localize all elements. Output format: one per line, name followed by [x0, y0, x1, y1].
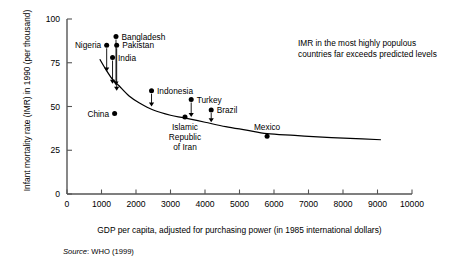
label-mexico: Mexico: [254, 122, 281, 132]
chart-annotation-note: IMR in the most highly populous countrie…: [298, 38, 448, 60]
x-tick-label: 10000: [400, 199, 424, 209]
label-nigeria: Nigeria: [75, 40, 102, 50]
fitted-prediction-curve: [100, 59, 381, 140]
x-tick-label: 8000: [333, 199, 352, 209]
x-tick-label: 9000: [368, 199, 387, 209]
arrow-head-nigeria: [104, 68, 109, 72]
y-tick-label: 0: [55, 189, 60, 199]
source-rest: : WHO (1999): [87, 247, 134, 256]
y-axis-label: Infant mortality rate (IMR) in 1990 (per…: [22, 6, 33, 196]
source-caption: Source: WHO (1999): [63, 247, 134, 256]
point-india: [110, 55, 115, 60]
x-axis-label: GDP per capita, adjusted for purchasing …: [67, 225, 412, 235]
arrow-head-pakistan: [114, 87, 119, 91]
y-tick-label: 25: [50, 145, 60, 155]
point-bangladesh: [113, 34, 118, 39]
x-tick-label: 7000: [299, 199, 318, 209]
label-brazil: Brazil: [217, 105, 238, 115]
y-tick-labels: 0255075100: [46, 14, 61, 199]
point-nigeria: [104, 43, 109, 48]
label-china: China: [87, 109, 109, 119]
x-tick-label: 2000: [126, 199, 145, 209]
point-islamic-republic-of-iran: [182, 115, 187, 120]
point-brazil: [209, 108, 214, 113]
x-tick-label: 6000: [264, 199, 283, 209]
label-turkey: Turkey: [197, 95, 223, 105]
x-tick-label: 1000: [92, 199, 111, 209]
point-mexico: [265, 134, 270, 139]
point-turkey: [189, 97, 194, 102]
data-point-labels: NigeriaBangladeshPakistanIndiaIndonesiaC…: [75, 32, 281, 152]
source-prefix: Source: [63, 247, 87, 256]
x-tick-label: 0: [65, 199, 70, 209]
point-china: [112, 111, 117, 116]
y-tick-label: 75: [50, 58, 60, 68]
label-islamic-republic-of-iran: Republic: [169, 132, 201, 142]
y-tick-label: 100: [46, 14, 61, 24]
x-tick-label: 5000: [230, 199, 249, 209]
label-pakistan: Pakistan: [122, 40, 154, 50]
arrow-head-brazil: [209, 118, 214, 122]
x-tick-label: 3000: [161, 199, 180, 209]
point-indonesia: [149, 88, 154, 93]
point-pakistan: [114, 43, 119, 48]
y-tick-label: 50: [50, 102, 60, 112]
label-india: India: [118, 53, 136, 63]
arrow-head-indonesia: [149, 103, 154, 107]
x-tick-labels: 0100020003000400050006000700080009000100…: [65, 199, 425, 209]
arrow-head-turkey: [189, 113, 194, 117]
x-tick-label: 4000: [195, 199, 214, 209]
label-indonesia: Indonesia: [157, 86, 193, 96]
label-islamic-republic-of-iran: of Iran: [173, 142, 197, 152]
y-tick-marks: [67, 19, 72, 194]
label-islamic-republic-of-iran: Islamic: [172, 122, 198, 132]
